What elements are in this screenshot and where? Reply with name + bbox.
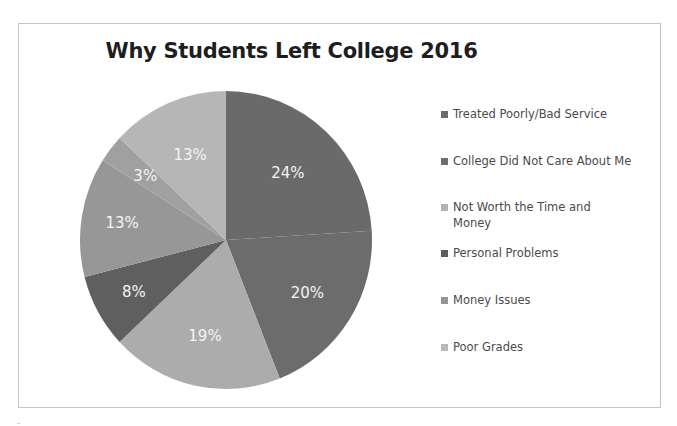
stray-mark — [17, 423, 20, 424]
legend-label: Treated Poorly/Bad Service — [453, 106, 643, 122]
legend-swatch-icon — [441, 344, 448, 351]
legend-label: Personal Problems — [453, 245, 643, 261]
legend-swatch-icon — [441, 297, 448, 304]
slice-data-label: 3% — [133, 167, 157, 185]
legend-item: Money Issues — [441, 292, 643, 308]
legend-label: Not Worth the Time and Money — [453, 199, 593, 231]
legend-item: Not Worth the Time and Money — [441, 199, 593, 231]
chart-frame: Why Students Left College 2016 24%20%19%… — [18, 23, 661, 408]
legend-swatch-icon — [441, 158, 448, 165]
legend-label: Money Issues — [453, 292, 643, 308]
legend-label: Poor Grades — [453, 339, 643, 355]
slice-data-label: 13% — [173, 146, 206, 164]
legend-item: Treated Poorly/Bad Service — [441, 106, 643, 122]
legend-item: College Did Not Care About Me — [441, 153, 643, 169]
slice-data-label: 20% — [291, 284, 324, 302]
legend-item: Personal Problems — [441, 245, 643, 261]
legend-swatch-icon — [441, 250, 448, 257]
slice-data-label: 8% — [122, 283, 146, 301]
legend-swatch-icon — [441, 204, 448, 211]
legend-label: College Did Not Care About Me — [453, 153, 643, 169]
legend-item: Poor Grades — [441, 339, 643, 355]
slice-data-label: 13% — [106, 214, 139, 232]
legend-swatch-icon — [441, 111, 448, 118]
slice-data-label: 19% — [188, 327, 221, 345]
slice-data-label: 24% — [271, 164, 304, 182]
